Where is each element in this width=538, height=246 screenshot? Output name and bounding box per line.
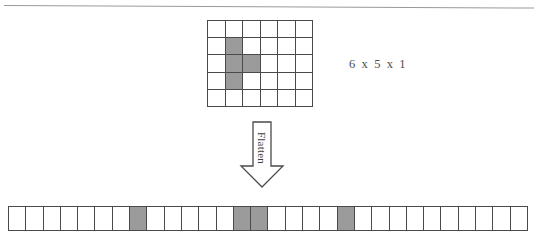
flatten-arrow: Flatten [239,121,285,189]
strip-cell [320,207,337,231]
strip-cell [390,207,407,231]
strip-cell [407,207,424,231]
down-arrow-icon [239,121,285,189]
flattened-vector [8,206,528,231]
input-feature-map [207,20,313,107]
grid-cell [226,21,244,38]
strip-cell [78,207,95,231]
strip-cell [372,207,389,231]
grid-cell [208,55,226,72]
top-divider-rule [4,5,534,9]
strip-cell [355,207,372,231]
strip-cell [95,207,112,231]
grid-cell [278,38,296,55]
grid-cell [243,73,261,90]
grid-cell-active [226,38,244,55]
strip-cell-active [234,207,251,231]
grid-cell [261,21,279,38]
grid-cell [296,55,314,72]
strip-cell [441,207,458,231]
strip-cell [268,207,285,231]
strip-cell [44,207,61,231]
strip-cell [182,207,199,231]
strip-cell-active [251,207,268,231]
strip-cell [147,207,164,231]
grid-cell [296,38,314,55]
grid-cell [296,21,314,38]
diagram-canvas: 6 x 5 x 1 Flatten [0,0,538,246]
grid-cell-active [243,55,261,72]
grid-cell [296,73,314,90]
grid-cell [278,90,296,107]
strip-cell [165,207,182,231]
grid-cell [296,90,314,107]
grid-cell [208,21,226,38]
flattened-strip [8,206,528,231]
strip-cell-active [130,207,147,231]
grid-cell [243,21,261,38]
strip-cell [113,207,130,231]
strip-cell [286,207,303,231]
grid-cell [208,38,226,55]
strip-cell [217,207,234,231]
strip-cell [476,207,493,231]
grid-cell [208,90,226,107]
strip-cell [199,207,216,231]
input-grid [207,20,313,107]
grid-cell [278,73,296,90]
grid-cell-active [226,55,244,72]
strip-cell [9,207,26,231]
grid-cell [243,90,261,107]
grid-cell-active [226,73,244,90]
strip-cell [493,207,510,231]
strip-cell [61,207,78,231]
grid-cell [226,90,244,107]
strip-cell [459,207,476,231]
strip-cell [424,207,441,231]
grid-cell [278,21,296,38]
dimension-label: 6 x 5 x 1 [349,57,407,72]
grid-cell [261,38,279,55]
strip-cell [303,207,320,231]
strip-cell [511,207,528,231]
strip-cell [26,207,43,231]
grid-cell [208,73,226,90]
grid-cell [278,55,296,72]
grid-cell [261,90,279,107]
strip-cell-active [338,207,355,231]
grid-cell [243,38,261,55]
grid-cell [261,73,279,90]
grid-cell [261,55,279,72]
